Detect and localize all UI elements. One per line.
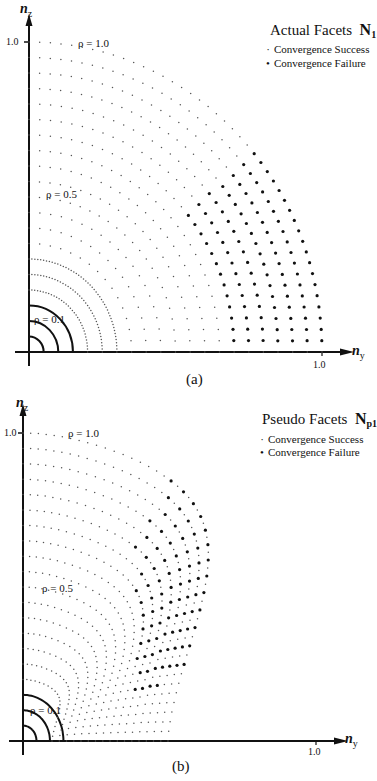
y-tick-label-b: 1.0 <box>4 428 17 438</box>
failure-marker-icon: • <box>256 447 268 458</box>
rho-label-1-b: ρ = 1.0 <box>68 428 99 439</box>
rho-label-01-b: ρ = 0.1 <box>30 705 61 716</box>
y-axis-label-a: nz <box>20 2 32 19</box>
chart-title-a: Actual Facets N1 <box>270 22 376 40</box>
rho-label-01-a: ρ = 0.1 <box>34 314 65 325</box>
legend-failure-a: •Convergence Failure <box>262 58 366 69</box>
legend-failure-b: •Convergence Failure <box>256 447 360 458</box>
x-axis-label-a: ny <box>352 344 365 361</box>
rho-label-05-b: ρ = 0.5 <box>42 583 73 594</box>
x-axis-label-b: ny <box>345 732 358 749</box>
caption-b: (b) <box>172 759 190 774</box>
x-tick-label-b: 1.0 <box>308 747 321 757</box>
chart-panel-b: nz 1.0 ρ = 1.0 ρ = 0.5 ρ = 0.1 Pseudo Fa… <box>0 390 371 781</box>
rho-label-1-a: ρ = 1.0 <box>78 38 109 49</box>
failure-marker-icon: • <box>262 58 274 69</box>
chart-panel-a: nz 1.0 ρ = 1.0 ρ = 0.5 ρ = 0.1 Actual Fa… <box>0 0 371 390</box>
chart-title-b: Pseudo Facets Np1 <box>262 411 377 429</box>
success-marker-icon: · <box>256 434 268 445</box>
y-axis-label-b: nz <box>16 396 28 413</box>
y-tick-label-a: 1.0 <box>6 37 19 47</box>
x-tick-label-a: 1.0 <box>313 360 326 370</box>
caption-a: (a) <box>186 372 203 387</box>
legend-success-b: ·Convergence Success <box>256 434 363 445</box>
rho-label-05-a: ρ = 0.5 <box>46 189 77 200</box>
success-marker-icon: · <box>262 44 274 55</box>
legend-success-a: ·Convergence Success <box>262 44 369 55</box>
